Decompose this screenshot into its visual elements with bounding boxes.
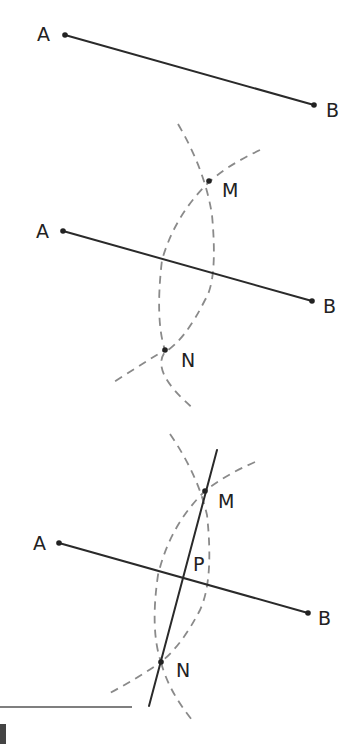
point-b [305,610,311,616]
label-p: P [193,553,204,575]
segment-ab [63,231,312,301]
point-b [311,102,317,108]
label-a: A [36,220,49,242]
point-m [206,178,212,184]
point-n [158,659,164,665]
panel-step-3: A B M N P [33,434,331,720]
point-a [56,540,62,546]
panel-step-1: A B [37,23,339,121]
segment-ab [65,35,314,105]
label-a: A [37,23,50,45]
label-a: A [33,532,46,554]
label-m: M [222,179,238,201]
construction-diagram: A B A B M N A B M N P [0,0,350,744]
label-b: B [323,295,336,317]
point-a [62,32,68,38]
label-n: N [181,349,195,371]
panel-step-2: A B M N [36,124,336,410]
point-m [202,488,208,494]
label-b: B [318,607,331,629]
page-edge-mark [0,724,6,744]
point-n [162,347,168,353]
label-n: N [176,659,190,681]
label-b: B [326,99,339,121]
point-b [309,298,315,304]
point-a [60,228,66,234]
label-m: M [218,490,234,512]
